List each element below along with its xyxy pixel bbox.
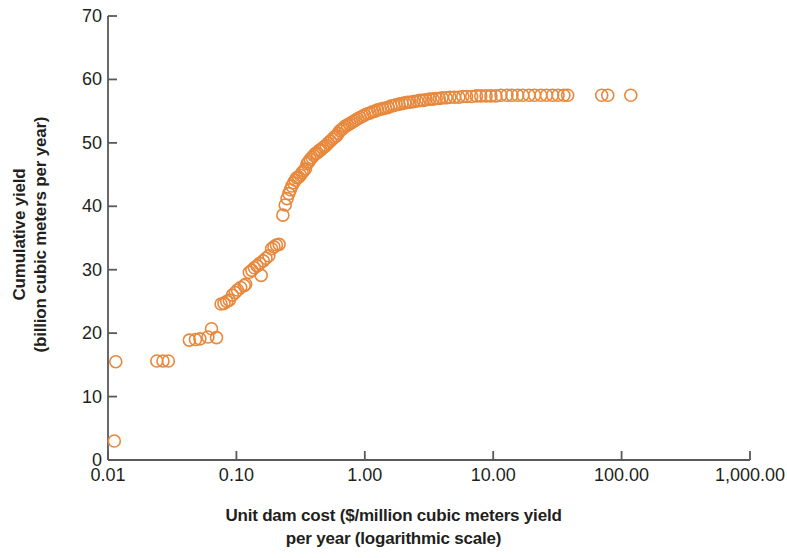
x-axis-title: Unit dam cost ($/million cubic meters yi… bbox=[0, 505, 787, 551]
x-axis-tick-label: 0.10 bbox=[219, 466, 254, 484]
x-axis-tick-labels: 0.010.101.0010.00100.001,000.00 bbox=[0, 466, 787, 496]
x-axis-title-line-1: Unit dam cost ($/million cubic meters yi… bbox=[0, 505, 787, 528]
x-axis-tick-label: 1.00 bbox=[347, 466, 382, 484]
x-axis-tick-label: 100.00 bbox=[594, 466, 649, 484]
scatter-point bbox=[211, 332, 223, 344]
plot-area bbox=[0, 0, 787, 500]
x-axis-tick-label: 10.00 bbox=[471, 466, 516, 484]
scatter-point bbox=[625, 89, 637, 101]
chart-figure: (billion cubic meters per year) Cumulati… bbox=[0, 0, 787, 558]
scatter-point bbox=[108, 435, 120, 447]
data-markers bbox=[108, 89, 637, 447]
axes bbox=[108, 16, 750, 460]
x-axis-tick-label: 0.01 bbox=[90, 466, 125, 484]
x-axis-tick-label: 1,000.00 bbox=[715, 466, 785, 484]
scatter-point bbox=[110, 356, 122, 368]
x-axis-title-line-2: per year (logarithmic scale) bbox=[0, 528, 787, 551]
